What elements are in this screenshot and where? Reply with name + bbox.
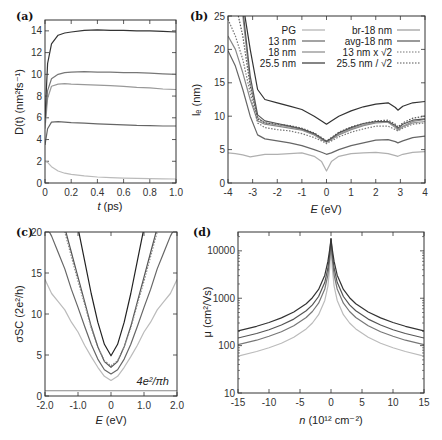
y-tick-label: 14 xyxy=(31,25,43,36)
x-tick-label: -3 xyxy=(248,187,257,198)
series-line xyxy=(45,224,177,374)
y-tick-label: 2 xyxy=(36,156,42,167)
x-tick-label: 15 xyxy=(418,397,430,408)
panel-label-a: (a) xyxy=(16,10,34,23)
series-line xyxy=(45,216,177,368)
series-line xyxy=(45,216,177,366)
plot-frame xyxy=(45,20,176,183)
panel-d: -15-10-505101510100100010000 xyxy=(207,232,430,408)
panel-d-xlabel: n (10¹² cm⁻²) xyxy=(299,414,362,426)
y-tick-label: 5 xyxy=(36,350,42,361)
y-tick-label: 0 xyxy=(36,178,42,189)
y-tick-label: 10 xyxy=(31,309,43,320)
legend-label: 18 nm xyxy=(268,47,296,58)
panel-a-xlabel: t (ps) xyxy=(97,200,122,212)
y-tick-label: 1000 xyxy=(213,293,236,304)
annotation-label: 4e²/πh xyxy=(137,375,169,387)
y-tick-label: 8 xyxy=(36,91,42,102)
y-tick-label: 100 xyxy=(218,340,235,351)
x-tick-label: 0.4 xyxy=(90,187,104,198)
panel-label-b: (b) xyxy=(190,10,208,23)
legend-label: avg-18 nm xyxy=(345,36,392,47)
legend-label: br-18 nm xyxy=(352,25,392,36)
x-tick-label: 1.0 xyxy=(169,187,183,198)
y-tick-label: 15 xyxy=(214,77,226,88)
panel-a-ylabel: D(t) (nm²fs⁻¹) xyxy=(13,69,25,135)
x-tick-label: 0 xyxy=(108,400,114,411)
y-tick-label: 10 xyxy=(224,388,236,399)
y-tick-label: 12 xyxy=(31,47,43,58)
x-tick-label: 0 xyxy=(324,187,330,198)
panel-d-ylabel: μ (cm²/Vs) xyxy=(201,287,213,338)
panel-b-ylabel: lₑ (nm) xyxy=(190,84,202,116)
x-tick-label: 4 xyxy=(422,187,428,198)
panel-label-d: (d) xyxy=(193,226,211,239)
plot-frame xyxy=(45,232,177,396)
x-tick-label: 0.6 xyxy=(117,187,131,198)
plot-area: 00.20.40.60.81.002468101214-4-3-2-101234… xyxy=(31,3,430,411)
y-tick-label: 0 xyxy=(219,178,225,189)
x-tick-label: -5 xyxy=(296,397,305,408)
x-tick-label: -1.0 xyxy=(69,400,87,411)
x-tick-label: -4 xyxy=(224,187,233,198)
y-tick-label: 15 xyxy=(31,268,43,279)
series-line xyxy=(238,239,424,356)
series-line xyxy=(238,239,424,345)
y-tick-label: 10 xyxy=(214,111,226,122)
x-tick-label: -2.0 xyxy=(36,400,54,411)
legend-label: PG xyxy=(282,25,297,36)
series-line xyxy=(45,72,176,124)
series-line xyxy=(45,216,177,356)
series-line xyxy=(228,51,425,155)
y-tick-label: 25 xyxy=(214,11,226,22)
x-tick-label: 0 xyxy=(42,187,48,198)
x-tick-label: 2 xyxy=(373,187,379,198)
legend-label: 25.5 nm xyxy=(260,58,296,69)
x-tick-label: 1.0 xyxy=(137,400,151,411)
x-tick-label: 0 xyxy=(328,397,334,408)
x-tick-label: -10 xyxy=(262,397,277,408)
legend-label: 13 nm x √2 xyxy=(343,47,393,58)
series-line xyxy=(228,3,425,125)
panel-a: 00.20.40.60.81.002468101214 xyxy=(31,20,184,198)
x-tick-label: 5 xyxy=(359,397,365,408)
y-tick-label: 0 xyxy=(36,391,42,402)
series-line xyxy=(45,161,176,179)
plot-frame xyxy=(238,232,424,393)
x-tick-label: 2.0 xyxy=(170,400,184,411)
y-tick-label: 10 xyxy=(31,69,43,80)
figure-canvas: (a) (b) (c) (d) t (ps) E (eV) E (eV) n (… xyxy=(0,0,442,440)
x-tick-label: 0.2 xyxy=(64,187,78,198)
panel-b: -4-3-2-1012340510152025PG13 nm18 nm25.5 … xyxy=(214,3,428,198)
x-tick-label: 1 xyxy=(348,187,354,198)
y-tick-label: 20 xyxy=(31,227,43,238)
y-tick-label: 5 xyxy=(219,144,225,155)
y-tick-label: 6 xyxy=(36,112,42,123)
legend-label: 13 nm xyxy=(268,36,296,47)
y-tick-label: 20 xyxy=(214,44,226,55)
x-tick-label: 0.8 xyxy=(143,187,157,198)
panel-c: -2.0-1.001.02.0051015204e²/πh xyxy=(31,216,185,411)
panel-b-xlabel: E (eV) xyxy=(310,203,341,215)
plot-frame xyxy=(228,16,425,183)
x-tick-label: 10 xyxy=(387,397,399,408)
panel-c-ylabel: σSC (2e²/h) xyxy=(13,285,25,343)
y-tick-label: 4 xyxy=(36,134,42,145)
x-tick-label: -2 xyxy=(273,187,282,198)
x-tick-label: 3 xyxy=(398,187,404,198)
y-tick-label: 10000 xyxy=(207,245,235,256)
x-tick-label: -15 xyxy=(231,397,246,408)
panel-c-xlabel: E (eV) xyxy=(95,414,126,426)
x-tick-label: -1 xyxy=(297,187,306,198)
legend-label: 25.5 nm / √2 xyxy=(336,58,392,69)
series-line xyxy=(45,122,176,145)
